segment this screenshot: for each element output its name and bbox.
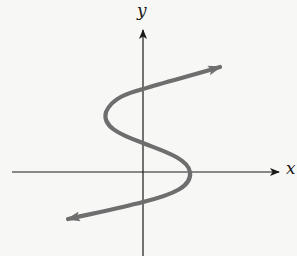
s-curve-tail xyxy=(68,202,143,219)
y-axis-label: y xyxy=(137,2,147,19)
graph-svg xyxy=(0,0,297,256)
x-axis-label: x xyxy=(286,160,296,177)
s-curve xyxy=(105,67,220,202)
graph-canvas: y x xyxy=(0,0,297,256)
